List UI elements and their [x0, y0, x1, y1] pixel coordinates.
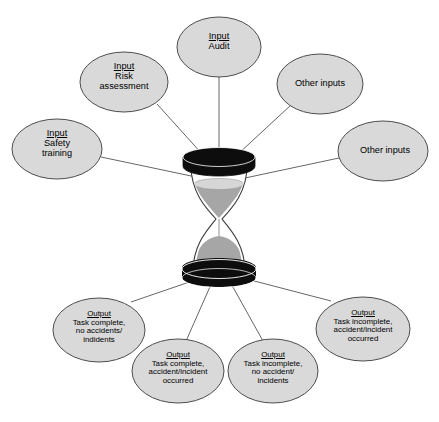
- node-other-inputs-right[interactable]: [338, 121, 428, 181]
- upper-sand-body: [194, 185, 244, 220]
- connector-input-safety-training: [101, 157, 196, 177]
- node-output-complete-no-accidents[interactable]: [53, 298, 145, 362]
- connector-other-inputs-top: [237, 105, 291, 155]
- top-cap-disc: [183, 148, 255, 167]
- connector-output-incomplete-no-accident: [229, 280, 263, 341]
- node-output-complete-accident-occurred[interactable]: [132, 339, 224, 403]
- hourglass-top-cap: [183, 148, 255, 177]
- upper-sand-surface: [194, 179, 244, 190]
- node-input-risk-assessment[interactable]: [80, 52, 168, 112]
- diagram-canvas: [0, 0, 439, 422]
- node-input-audit[interactable]: [177, 17, 261, 77]
- node-output-incomplete-accident-occurred[interactable]: [316, 297, 410, 361]
- hourglass-diagram: Input Audit Input Risk assessment Input …: [0, 0, 439, 422]
- hourglass-base: [182, 258, 256, 288]
- connector-other-inputs-right: [245, 158, 339, 178]
- node-other-inputs-top[interactable]: [277, 54, 363, 114]
- hourglass: [182, 148, 256, 288]
- node-output-incomplete-no-accident[interactable]: [228, 339, 318, 403]
- output-nodes: [53, 297, 410, 403]
- node-input-safety-training[interactable]: [12, 119, 102, 179]
- connector-input-risk-assessment: [157, 104, 203, 155]
- connector-output-complete-accident: [186, 280, 213, 341]
